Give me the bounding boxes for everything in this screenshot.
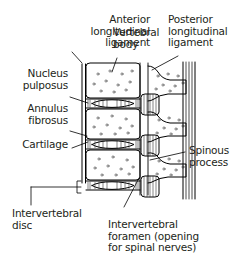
label-intervertebral-foramen: Intervertebral foramen (opening for spin… — [108, 219, 236, 254]
vertebral-body-3 — [86, 150, 140, 180]
label-annulus-fibrosus: Annulus fibrosus — [0, 103, 68, 126]
label-cartilage: Cartilage — [0, 139, 68, 151]
annulus-lamellae-3 — [88, 182, 138, 190]
label-intervertebral-disc: Intervertebral disc — [12, 208, 106, 231]
leader-anterior-ligament — [72, 52, 82, 63]
label-posterior-longitudinal-ligament: Posterior longitudinal ligament — [168, 14, 248, 49]
nucleus-pulposus-2 — [92, 141, 134, 149]
nucleus-pulposus-1 — [92, 100, 134, 108]
figure-canvas: Anterior longitudinal ligament Vertebral… — [0, 0, 248, 269]
annulus-lamellae-1 — [88, 100, 138, 108]
leader-posterior-ligament — [152, 56, 178, 70]
label-nucleus-pulposus: Nucleus pulposus — [0, 68, 68, 91]
intervertebral-disc-3 — [86, 181, 140, 190]
intervertebral-foramen-3 — [141, 176, 159, 197]
trabeculae-dots-3 — [94, 156, 134, 176]
posterior-longitudinal-ligament — [183, 62, 195, 199]
spinous-process-1 — [148, 66, 186, 101]
label-spinous-process: Spinous process — [189, 145, 247, 168]
intervertebral-disc-1 — [86, 99, 140, 108]
leader-annulus-fibrosus — [70, 131, 87, 136]
leader-intervertebral-foramen — [124, 178, 139, 207]
nucleus-pulposus-3 — [92, 182, 134, 190]
vertebral-body-2 — [86, 109, 140, 139]
vertebral-arch-column — [140, 63, 148, 195]
intervertebral-disc-2 — [86, 140, 140, 149]
trabeculae-dots-2 — [93, 115, 133, 135]
annulus-lamellae-2 — [88, 141, 138, 149]
label-vertebral-body: Vertebral body — [113, 27, 171, 50]
trabeculae-dots-1 — [93, 70, 133, 93]
spinous-process-2 — [148, 112, 186, 142]
anterior-longitudinal-ligament — [82, 64, 86, 183]
spinous-process-3 — [148, 153, 186, 183]
leader-vertebral-body — [112, 58, 117, 72]
